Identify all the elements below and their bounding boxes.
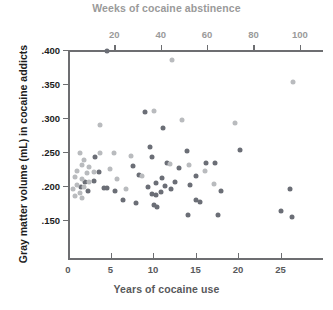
- data-point: [153, 181, 158, 186]
- data-point: [203, 160, 208, 165]
- data-point: [202, 169, 207, 174]
- data-point: [93, 154, 98, 159]
- data-point: [212, 181, 217, 186]
- top-axis-tick-label: 100: [292, 29, 308, 40]
- data-point: [237, 147, 242, 152]
- data-point: [145, 185, 150, 190]
- data-point: [98, 151, 103, 156]
- top-axis-tick-label: 60: [202, 29, 213, 40]
- data-points-layer: [0, 0, 333, 310]
- data-point: [84, 171, 89, 176]
- data-point: [79, 195, 84, 200]
- data-point: [75, 169, 80, 174]
- y-axis-tick-label: .350: [28, 79, 60, 90]
- data-point: [78, 185, 83, 190]
- scatter-plot-figure: Weeks of cocaine abstinence Gray matter …: [0, 0, 333, 310]
- y-axis-tick-label: .300: [28, 113, 60, 124]
- data-point: [101, 186, 106, 191]
- data-point: [77, 150, 82, 155]
- data-point: [143, 109, 148, 114]
- y-axis-title: Gray matter volume (mL) in cocaine addic…: [17, 39, 29, 269]
- data-point: [168, 162, 173, 167]
- data-point: [91, 178, 96, 183]
- data-point: [85, 188, 90, 193]
- data-point: [91, 169, 96, 174]
- data-point: [194, 174, 199, 179]
- data-point: [186, 162, 191, 167]
- data-point: [151, 203, 156, 208]
- data-point: [98, 123, 103, 128]
- data-point: [185, 212, 190, 217]
- top-axis-title: Weeks of cocaine abstinence: [0, 2, 333, 14]
- data-point: [121, 197, 126, 202]
- data-point: [162, 184, 167, 189]
- data-point: [105, 186, 110, 191]
- data-point: [79, 177, 84, 182]
- bottom-axis-tick-label: 10: [148, 264, 159, 275]
- data-point: [72, 193, 77, 198]
- data-point: [77, 190, 82, 195]
- data-point: [137, 173, 142, 178]
- data-point: [278, 209, 283, 214]
- bottom-axis-tick-label: 20: [233, 264, 244, 275]
- data-point: [213, 160, 218, 165]
- top-axis-line: [68, 50, 323, 52]
- data-point: [75, 182, 80, 187]
- bottom-axis-tick-label: 15: [190, 264, 201, 275]
- bottom-axis-tick-label: 0: [65, 264, 70, 275]
- data-point: [168, 186, 173, 191]
- data-point: [151, 109, 156, 114]
- top-axis-tick-label: 40: [155, 29, 166, 40]
- data-point: [287, 186, 292, 191]
- data-point: [161, 125, 166, 130]
- data-point: [177, 166, 182, 171]
- data-point: [150, 192, 155, 197]
- data-point: [154, 192, 159, 197]
- data-point: [79, 162, 84, 167]
- data-point: [219, 189, 224, 194]
- data-point: [232, 120, 237, 125]
- data-point: [70, 186, 75, 191]
- bottom-axis-title: Years of cocaine use: [0, 283, 333, 295]
- data-point: [140, 173, 145, 178]
- data-point: [123, 186, 128, 191]
- data-point: [112, 189, 117, 194]
- data-point: [128, 154, 133, 159]
- y-axis-line: [68, 50, 70, 259]
- data-point: [197, 200, 202, 205]
- data-point: [188, 182, 193, 187]
- y-axis-tick-label: .250: [28, 147, 60, 158]
- y-axis-tick-label: .150: [28, 215, 60, 226]
- data-point: [86, 179, 91, 184]
- bottom-axis-tick-label: 5: [108, 264, 113, 275]
- data-point: [86, 164, 91, 169]
- data-point: [290, 79, 295, 84]
- data-point: [164, 160, 169, 165]
- data-point: [130, 164, 135, 169]
- y-axis-tick-label: .200: [28, 181, 60, 192]
- axis-ticks-layer: 204060801000510152025.400.350.300.250.20…: [0, 0, 333, 310]
- data-point: [185, 148, 190, 153]
- data-point: [173, 179, 178, 184]
- data-point: [179, 118, 184, 123]
- data-point: [215, 213, 220, 218]
- data-point: [194, 197, 199, 202]
- data-point: [114, 176, 119, 181]
- data-point: [72, 175, 77, 180]
- data-point: [155, 205, 160, 210]
- data-point: [150, 154, 155, 159]
- bottom-axis-tick-label: 25: [275, 264, 286, 275]
- data-point: [170, 57, 175, 62]
- data-point: [83, 179, 88, 184]
- data-point: [82, 184, 87, 189]
- data-point: [147, 144, 152, 149]
- data-point: [289, 214, 294, 219]
- bottom-axis-line: [68, 258, 323, 260]
- data-point: [107, 167, 112, 172]
- data-point: [159, 175, 164, 180]
- data-point: [112, 151, 117, 156]
- top-axis-tick-label: 20: [109, 29, 120, 40]
- data-point: [96, 169, 101, 174]
- data-point: [82, 158, 87, 163]
- data-point: [158, 190, 163, 195]
